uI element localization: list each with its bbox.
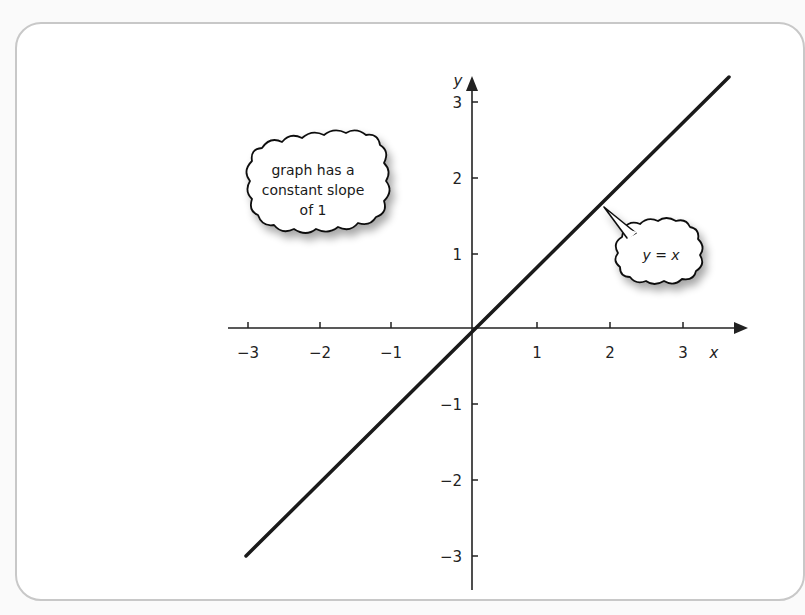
x-tick-label: 1	[532, 344, 542, 362]
y-axis-arrow-icon	[466, 76, 478, 91]
slope-note-line: graph has a	[271, 162, 354, 178]
y-tick-label: −2	[440, 472, 462, 490]
x-tick-label: −3	[237, 344, 259, 362]
x-tick-label: −2	[309, 344, 331, 362]
line-label-text: y = x	[641, 247, 680, 263]
x-axis: −3 −2 −1 1 2 3 x	[228, 322, 748, 362]
y-tick-label: 3	[452, 94, 462, 112]
x-tick-label: 2	[605, 344, 615, 362]
y-tick-label: −1	[440, 396, 462, 414]
x-tick-label: −1	[380, 344, 402, 362]
y-tick-label: −3	[440, 548, 462, 566]
y-tick-label: 1	[452, 246, 462, 264]
x-axis-label: x	[709, 344, 719, 362]
x-axis-arrow-icon	[734, 322, 748, 334]
y-tick-label: 2	[452, 170, 462, 188]
x-tick-label: 3	[678, 344, 688, 362]
y-axis-label: y	[453, 72, 464, 90]
slope-note-line: of 1	[300, 202, 327, 218]
line-label-callout	[604, 207, 703, 284]
slope-note-line: constant slope	[262, 182, 365, 198]
